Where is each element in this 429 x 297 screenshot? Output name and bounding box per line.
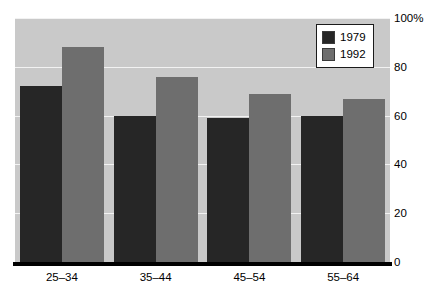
bar-1992-35–44 [156, 77, 198, 262]
y-tick-label: 60 [394, 110, 407, 122]
legend-item: 1992 [322, 46, 366, 63]
y-tick-label: 40 [394, 158, 407, 170]
bar-chart: 020406080100% 25–3435–4445–5455–64 1979 … [0, 0, 429, 297]
bar-1992-25–34 [62, 47, 104, 262]
bar-1979-25–34 [20, 86, 62, 262]
legend: 1979 1992 [316, 24, 374, 68]
y-tick-label: 0 [394, 256, 400, 268]
bar-1979-35–44 [114, 116, 156, 262]
y-tick-label: 100% [394, 12, 423, 24]
bar-1979-55–64 [301, 116, 343, 262]
legend-swatch-1979 [322, 31, 335, 44]
y-tick-label: 80 [394, 61, 407, 73]
legend-label-1979: 1979 [340, 31, 366, 44]
legend-item: 1979 [322, 29, 366, 46]
x-tick-label: 25–34 [15, 271, 109, 284]
bar-1992-55–64 [343, 99, 385, 262]
bar-1992-45–54 [249, 94, 291, 262]
y-tick-label: 20 [394, 207, 407, 219]
bar-1979-45–54 [207, 118, 249, 262]
x-tick-label: 35–44 [109, 271, 203, 284]
x-axis-line [13, 262, 392, 266]
x-tick-label: 55–64 [296, 271, 390, 284]
legend-label-1992: 1992 [340, 48, 366, 61]
legend-swatch-1992 [322, 48, 335, 61]
x-tick-label: 45–54 [202, 271, 296, 284]
